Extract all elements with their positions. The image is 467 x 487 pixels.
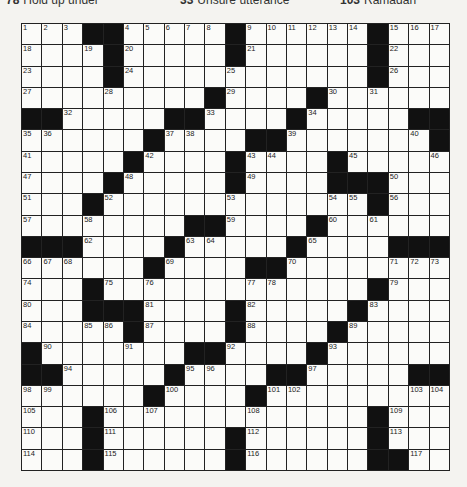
grid-cell[interactable] bbox=[287, 173, 306, 193]
grid-cell[interactable] bbox=[63, 407, 82, 427]
grid-cell[interactable]: 94 bbox=[63, 365, 82, 385]
grid-cell[interactable] bbox=[124, 109, 143, 129]
grid-cell[interactable]: 14 bbox=[348, 24, 367, 44]
grid-cell[interactable] bbox=[430, 450, 449, 470]
grid-cell[interactable] bbox=[267, 173, 286, 193]
grid-cell[interactable] bbox=[205, 450, 224, 470]
grid-cell[interactable] bbox=[267, 407, 286, 427]
grid-cell[interactable]: 95 bbox=[185, 365, 204, 385]
grid-cell[interactable] bbox=[368, 322, 387, 342]
grid-cell[interactable] bbox=[63, 194, 82, 214]
grid-cell[interactable] bbox=[185, 258, 204, 278]
grid-cell[interactable] bbox=[287, 152, 306, 172]
grid-cell[interactable] bbox=[42, 194, 61, 214]
grid-cell[interactable] bbox=[328, 428, 347, 448]
grid-cell[interactable] bbox=[124, 194, 143, 214]
grid-cell[interactable] bbox=[83, 258, 102, 278]
grid-cell[interactable] bbox=[287, 279, 306, 299]
grid-cell[interactable] bbox=[328, 301, 347, 321]
grid-cell[interactable] bbox=[185, 407, 204, 427]
grid-cell[interactable] bbox=[307, 279, 326, 299]
grid-cell[interactable]: 115 bbox=[104, 450, 123, 470]
grid-cell[interactable] bbox=[430, 67, 449, 87]
grid-cell[interactable] bbox=[430, 301, 449, 321]
grid-cell[interactable]: 54 bbox=[328, 194, 347, 214]
grid-cell[interactable] bbox=[144, 45, 163, 65]
grid-cell[interactable] bbox=[430, 279, 449, 299]
grid-cell[interactable] bbox=[430, 428, 449, 448]
grid-cell[interactable] bbox=[389, 216, 408, 236]
grid-cell[interactable] bbox=[409, 322, 428, 342]
grid-cell[interactable]: 73 bbox=[430, 258, 449, 278]
grid-cell[interactable]: 108 bbox=[246, 407, 265, 427]
grid-cell[interactable]: 38 bbox=[185, 130, 204, 150]
grid-cell[interactable]: 75 bbox=[104, 279, 123, 299]
grid-cell[interactable] bbox=[124, 237, 143, 257]
grid-cell[interactable] bbox=[389, 322, 408, 342]
grid-cell[interactable] bbox=[328, 365, 347, 385]
grid-cell[interactable] bbox=[430, 216, 449, 236]
grid-cell[interactable] bbox=[124, 450, 143, 470]
grid-cell[interactable]: 25 bbox=[226, 67, 245, 87]
grid-cell[interactable] bbox=[307, 386, 326, 406]
grid-cell[interactable]: 59 bbox=[226, 216, 245, 236]
grid-cell[interactable] bbox=[287, 67, 306, 87]
grid-cell[interactable]: 51 bbox=[22, 194, 41, 214]
grid-cell[interactable]: 27 bbox=[22, 88, 41, 108]
grid-cell[interactable]: 43 bbox=[246, 152, 265, 172]
grid-cell[interactable]: 22 bbox=[389, 45, 408, 65]
grid-cell[interactable] bbox=[63, 450, 82, 470]
grid-cell[interactable]: 32 bbox=[63, 109, 82, 129]
grid-cell[interactable] bbox=[348, 343, 367, 363]
grid-cell[interactable] bbox=[430, 194, 449, 214]
grid-cell[interactable] bbox=[165, 279, 184, 299]
grid-cell[interactable] bbox=[328, 237, 347, 257]
grid-cell[interactable]: 36 bbox=[42, 130, 61, 150]
grid-cell[interactable] bbox=[104, 343, 123, 363]
grid-cell[interactable] bbox=[246, 67, 265, 87]
grid-cell[interactable] bbox=[246, 237, 265, 257]
grid-cell[interactable]: 97 bbox=[307, 365, 326, 385]
grid-cell[interactable] bbox=[205, 428, 224, 448]
grid-cell[interactable]: 66 bbox=[22, 258, 41, 278]
grid-cell[interactable]: 90 bbox=[42, 343, 61, 363]
grid-cell[interactable]: 4 bbox=[124, 24, 143, 44]
grid-cell[interactable] bbox=[348, 365, 367, 385]
grid-cell[interactable] bbox=[144, 216, 163, 236]
grid-cell[interactable] bbox=[368, 237, 387, 257]
grid-cell[interactable] bbox=[409, 45, 428, 65]
grid-cell[interactable]: 67 bbox=[42, 258, 61, 278]
grid-cell[interactable] bbox=[104, 365, 123, 385]
grid-cell[interactable] bbox=[124, 386, 143, 406]
grid-cell[interactable] bbox=[63, 343, 82, 363]
grid-cell[interactable] bbox=[267, 45, 286, 65]
grid-cell[interactable]: 49 bbox=[246, 173, 265, 193]
grid-cell[interactable]: 65 bbox=[307, 237, 326, 257]
grid-cell[interactable]: 13 bbox=[328, 24, 347, 44]
grid-cell[interactable]: 19 bbox=[83, 45, 102, 65]
grid-cell[interactable] bbox=[185, 88, 204, 108]
grid-cell[interactable]: 53 bbox=[226, 194, 245, 214]
grid-cell[interactable]: 103 bbox=[409, 386, 428, 406]
grid-cell[interactable] bbox=[165, 301, 184, 321]
grid-cell[interactable] bbox=[226, 407, 245, 427]
grid-cell[interactable] bbox=[267, 343, 286, 363]
grid-cell[interactable] bbox=[185, 152, 204, 172]
grid-cell[interactable] bbox=[63, 152, 82, 172]
grid-cell[interactable] bbox=[83, 88, 102, 108]
grid-cell[interactable] bbox=[328, 45, 347, 65]
grid-cell[interactable]: 18 bbox=[22, 45, 41, 65]
grid-cell[interactable] bbox=[267, 216, 286, 236]
grid-cell[interactable] bbox=[185, 45, 204, 65]
grid-cell[interactable]: 80 bbox=[22, 301, 41, 321]
grid-cell[interactable] bbox=[328, 109, 347, 129]
grid-cell[interactable]: 96 bbox=[205, 365, 224, 385]
grid-cell[interactable] bbox=[63, 88, 82, 108]
grid-cell[interactable] bbox=[42, 301, 61, 321]
grid-cell[interactable] bbox=[83, 67, 102, 87]
grid-cell[interactable]: 61 bbox=[368, 216, 387, 236]
grid-cell[interactable] bbox=[267, 450, 286, 470]
grid-cell[interactable] bbox=[328, 258, 347, 278]
grid-cell[interactable] bbox=[42, 173, 61, 193]
grid-cell[interactable]: 31 bbox=[368, 88, 387, 108]
